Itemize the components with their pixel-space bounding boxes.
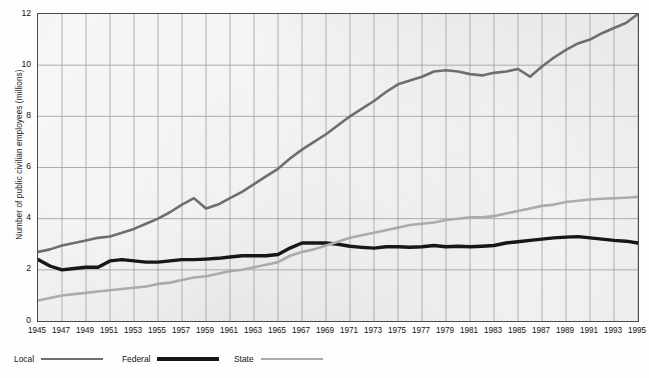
- y-tick-label: 4: [5, 212, 31, 222]
- legend-label: Local: [14, 354, 34, 364]
- legend-label: Federal: [122, 354, 150, 364]
- y-tick-label: 0: [5, 315, 31, 325]
- plot-area: [37, 13, 639, 322]
- y-tick-label: 8: [5, 110, 31, 120]
- legend-item-federal[interactable]: Federal: [122, 350, 219, 368]
- x-tick-label: 1995: [617, 326, 649, 335]
- series-line-local: [38, 14, 638, 252]
- y-tick-label: 2: [5, 263, 31, 273]
- legend-item-local[interactable]: Local: [14, 350, 103, 368]
- legend-label: State: [234, 354, 254, 364]
- y-axis-title: Number of public civilian employees (mil…: [15, 40, 24, 270]
- chart-figure: Number of public civilian employees (mil…: [0, 0, 649, 378]
- legend-swatch: [261, 358, 323, 360]
- legend-swatch: [41, 358, 103, 360]
- data-series-layer: [38, 14, 638, 321]
- legend-swatch: [157, 357, 219, 361]
- y-tick-label: 10: [5, 59, 31, 69]
- series-line-state: [38, 197, 638, 301]
- y-tick-label: 6: [5, 161, 31, 171]
- legend-item-state[interactable]: State: [234, 350, 323, 368]
- y-tick-label: 12: [5, 8, 31, 18]
